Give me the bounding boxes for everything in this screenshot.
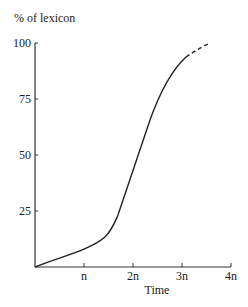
y-tick-100: 100 bbox=[13, 36, 31, 50]
y-tick-50: 50 bbox=[19, 148, 31, 162]
y-tick-25: 25 bbox=[19, 204, 31, 218]
x-ticks: n 2n 3n 4n bbox=[81, 263, 237, 283]
s-curve-solid bbox=[35, 57, 186, 267]
y-ticks: 25 50 75 100 bbox=[13, 36, 38, 218]
y-tick-75: 75 bbox=[19, 92, 31, 106]
x-tick-n: n bbox=[81, 269, 87, 283]
x-tick-2n: 2n bbox=[127, 269, 139, 283]
y-axis-label: % of lexicon bbox=[14, 11, 75, 25]
x-tick-3n: 3n bbox=[176, 269, 188, 283]
s-curve-dashed bbox=[186, 43, 210, 57]
x-axis-label: Time bbox=[145, 283, 170, 297]
x-tick-4n: 4n bbox=[225, 269, 237, 283]
chart: % of lexicon 25 50 75 100 n 2n 3n 4n Tim… bbox=[0, 0, 248, 307]
